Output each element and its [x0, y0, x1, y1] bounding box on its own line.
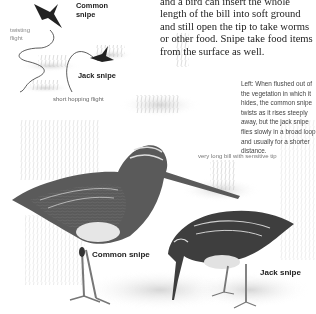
label-jack-snipe: Jack snipe [260, 268, 301, 277]
figure-caption: Left: When flushed out of the vegetation… [241, 79, 316, 156]
flight-label-common-snipe: Common snipe [76, 1, 116, 19]
body-paragraph: and a bird can insert the whole length o… [160, 0, 316, 58]
flight-label-jack-snipe: Jack snipe [78, 71, 116, 80]
common-snipe-flying-icon [34, 4, 62, 28]
label-common-snipe: Common snipe [92, 250, 150, 259]
hopping-flight-label: short hopping flight [53, 96, 104, 102]
bill-annotation: very long bill with sensitive tip [198, 153, 277, 159]
twisting-flight-label: twisting flight [10, 26, 38, 42]
